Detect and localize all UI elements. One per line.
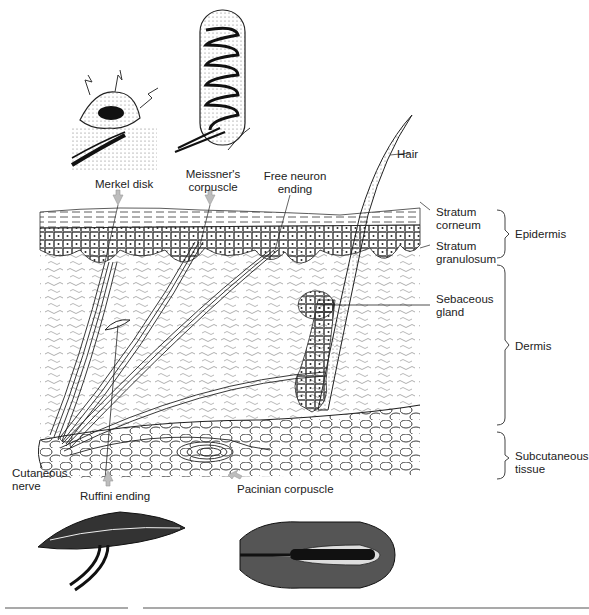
label-hair: Hair	[397, 148, 418, 161]
label-ruffini-ending: Ruffini ending	[80, 490, 150, 503]
pacinian-corpuscle-inset	[240, 512, 395, 602]
label-dermis: Dermis	[515, 340, 551, 353]
label-stratum-corneum-line1: Stratum	[436, 206, 476, 219]
label-meissner-line2: corpuscle	[183, 181, 243, 194]
label-free-neuron-line2: ending	[260, 183, 330, 196]
label-stratum-corneum-line2: corneum	[436, 219, 481, 232]
merkel-disk-inset	[72, 70, 158, 170]
label-stratum-granulosum-line2: granulosum	[436, 253, 496, 266]
label-cutaneous-nerve-line1: Cutaneous	[12, 467, 68, 480]
meissner-corpuscle-inset	[175, 10, 250, 152]
label-subcutaneous-line1: Subcutaneous	[515, 450, 589, 463]
label-pacinian-corpuscle: Pacinian corpuscle	[237, 483, 334, 496]
label-subcutaneous-line2: tissue	[515, 463, 545, 476]
label-merkel-disk: Merkel disk	[95, 178, 153, 191]
label-sebaceous-line2: gland	[436, 306, 464, 319]
label-stratum-granulosum-line1: Stratum	[436, 240, 476, 253]
skin-diagram	[0, 0, 589, 615]
label-epidermis: Epidermis	[515, 228, 566, 241]
label-meissner-line1: Meissner's	[183, 168, 243, 181]
label-sebaceous-line1: Sebaceous	[436, 293, 494, 306]
label-cutaneous-nerve-line2: nerve	[12, 480, 41, 493]
label-free-neuron-line1: Free neuron	[260, 170, 330, 183]
ruffini-ending-inset	[38, 512, 185, 590]
layer-braces	[497, 210, 509, 479]
dermis-layer	[40, 250, 420, 440]
